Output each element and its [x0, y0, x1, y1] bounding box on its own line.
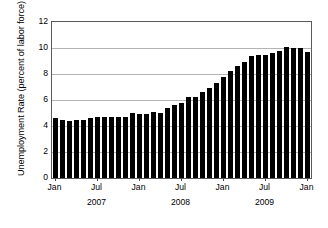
x-axis-year-labels: 200720082009 [0, 198, 328, 210]
x-axis-tick-label: Jul [77, 183, 117, 192]
y-axis-tick-label: 4 [26, 121, 48, 130]
y-axis-title: Unemployment Rate (percent of labor forc… [17, 1, 26, 176]
bar [284, 47, 288, 178]
bar [277, 51, 281, 178]
bar [186, 97, 190, 178]
bar [263, 55, 267, 179]
bar [74, 120, 78, 179]
y-axis-title-container: Unemployment Rate (percent of labor forc… [0, 0, 22, 185]
x-axis-year-label: 2007 [72, 198, 122, 207]
x-axis-tick-label: Jan [119, 183, 159, 192]
bar [151, 112, 155, 178]
bar [221, 77, 225, 178]
x-axis-tick-mark [97, 178, 98, 181]
bar [249, 56, 253, 178]
x-axis-tick-mark [55, 178, 56, 181]
x-axis-tick-mark [181, 178, 182, 181]
bar [200, 92, 204, 178]
bar [137, 114, 141, 178]
x-axis-tick-labels: JanJulJanJulJanJulJan [0, 183, 328, 195]
bar [144, 114, 148, 178]
bar [95, 117, 99, 178]
x-axis-tick-mark [139, 178, 140, 181]
bar [298, 48, 302, 178]
bar [123, 117, 127, 178]
x-axis-tick-label: Jan [203, 183, 243, 192]
x-axis-tick-label: Jul [245, 183, 285, 192]
bar [242, 62, 246, 178]
plot-area [51, 21, 312, 179]
bar [165, 108, 169, 178]
x-axis-tick-label: Jan [35, 183, 75, 192]
x-axis-tick-label: Jul [161, 183, 201, 192]
bar [256, 55, 260, 179]
y-axis-tick-label: 2 [26, 147, 48, 156]
bar [193, 97, 197, 178]
x-axis-year-label: 2008 [156, 198, 206, 207]
bar [102, 117, 106, 178]
y-axis-tick-label: 10 [26, 43, 48, 52]
bar [172, 105, 176, 178]
y-axis-tick-label: 0 [26, 173, 48, 182]
bar [67, 121, 71, 178]
bar [60, 120, 64, 179]
y-axis-tick-labels: 024681012 [26, 14, 48, 184]
x-axis-tick-mark [265, 178, 266, 181]
x-axis-tick-mark [223, 178, 224, 181]
bar [270, 53, 274, 178]
bar [235, 66, 239, 178]
bar [305, 52, 309, 178]
y-axis-tick-label: 8 [26, 69, 48, 78]
x-axis-year-label: 2009 [240, 198, 290, 207]
bar [179, 103, 183, 178]
bar [291, 48, 295, 178]
bar [207, 88, 211, 178]
unemployment-rate-bar-chart: Unemployment Rate (percent of labor forc… [0, 0, 328, 228]
bar [228, 71, 232, 178]
bar [130, 113, 134, 178]
bar [214, 83, 218, 178]
y-axis-tick-label: 12 [26, 17, 48, 26]
bar [81, 120, 85, 179]
bar [109, 117, 113, 178]
bar-series [52, 22, 311, 178]
x-axis-tick-mark [307, 178, 308, 181]
y-axis-tick-label: 6 [26, 95, 48, 104]
bar [158, 113, 162, 178]
bar [53, 118, 57, 178]
bar [88, 118, 92, 178]
bar [116, 117, 120, 178]
x-axis-tick-label: Jan [287, 183, 327, 192]
